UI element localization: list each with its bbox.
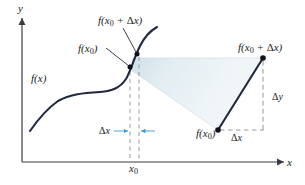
x-axis-label: x [287, 157, 292, 168]
label-f-x0-bottom: f(x0) [196, 128, 215, 141]
point-f-x0-plus-dx-curve [135, 52, 140, 57]
label-f-x0-plus-dx-top: f(x0 + Δx) [98, 15, 142, 28]
curve-label: f(x) [31, 73, 46, 84]
point-f-x0-right [215, 127, 221, 133]
y-axis-label: y [18, 3, 23, 14]
leader-line-f-x0-plus-dx [123, 28, 136, 52]
label-delta-x-left: Δx [99, 126, 110, 136]
label-delta-y: Δy [272, 92, 283, 102]
label-f-x0-left: f(x0) [78, 43, 97, 56]
label-x-zero: x0 [129, 163, 138, 176]
point-f-x0-curve [128, 65, 133, 70]
leader-line-f-x0 [106, 48, 129, 66]
magnification-wedge-fill [131, 58, 263, 130]
calculus-derivative-figure: y x f(x) f(x0) f(x0 + Δx) f(x0 + Δx) f(x… [0, 0, 305, 185]
figure-canvas [0, 0, 305, 185]
label-delta-x-right: Δx [231, 133, 242, 143]
point-f-x0-plus-dx-right [260, 55, 266, 61]
label-f-x0-plus-dx-right: f(x0 + Δx) [238, 42, 282, 55]
